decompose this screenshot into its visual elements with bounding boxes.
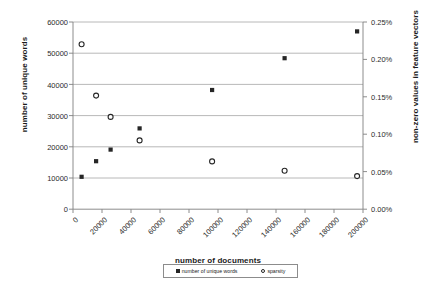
data-point-square — [80, 175, 84, 179]
data-point-circle — [94, 93, 99, 98]
legend-item-number-of-unique-words[interactable]: number of unique words — [176, 268, 238, 274]
legend-item-label: sparsity — [267, 268, 285, 274]
data-point-square — [138, 126, 142, 130]
legend-item-sparsity[interactable]: sparsity — [261, 268, 285, 274]
data-point-square — [210, 88, 214, 92]
data-point-square — [355, 29, 359, 33]
data-point-circle — [355, 174, 360, 179]
data-point-circle — [79, 42, 84, 47]
data-point-square — [94, 159, 98, 163]
data-point-circle — [108, 114, 113, 119]
data-point-circle — [137, 138, 142, 143]
x-axis-ticks — [73, 209, 363, 213]
data-point-square — [109, 148, 113, 152]
chart-container: number of unique words non-zero values i… — [0, 0, 441, 296]
series-sparsity — [79, 42, 360, 179]
data-point-circle — [210, 159, 215, 164]
legend-square-marker-icon — [176, 269, 180, 273]
gridlines — [73, 22, 363, 178]
data-point-circle — [282, 168, 287, 173]
legend-item-label: number of unique words — [182, 268, 238, 274]
y-axis-right-ticks — [363, 22, 367, 209]
chart-legend: number of unique words sparsity — [163, 264, 298, 278]
series-number-of-unique-words — [80, 29, 360, 179]
legend-circle-marker-icon — [261, 269, 266, 274]
plot-area — [0, 0, 441, 296]
y-axis-left-ticks — [69, 22, 73, 209]
data-point-square — [283, 56, 287, 60]
